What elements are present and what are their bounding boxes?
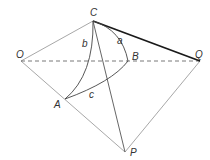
line-p-q [125, 61, 200, 152]
label-arc-a: a [117, 35, 123, 46]
label-point-p: P [130, 147, 137, 158]
label-arc-b: b [82, 38, 88, 49]
label-point-o: O [16, 49, 24, 60]
label-point-b: B [132, 51, 139, 62]
thick-line-c-q [93, 21, 200, 61]
label-point-q: Q [195, 49, 203, 60]
spherical-triangle-diagram: O C B Q A P a b c [0, 0, 210, 160]
arc-c-a-to-b [65, 61, 128, 99]
arc-b-c-to-a [65, 21, 93, 99]
label-point-c: C [90, 7, 98, 18]
label-point-a: A [53, 99, 61, 110]
line-o-p [21, 61, 125, 152]
label-arc-c: c [89, 89, 94, 100]
